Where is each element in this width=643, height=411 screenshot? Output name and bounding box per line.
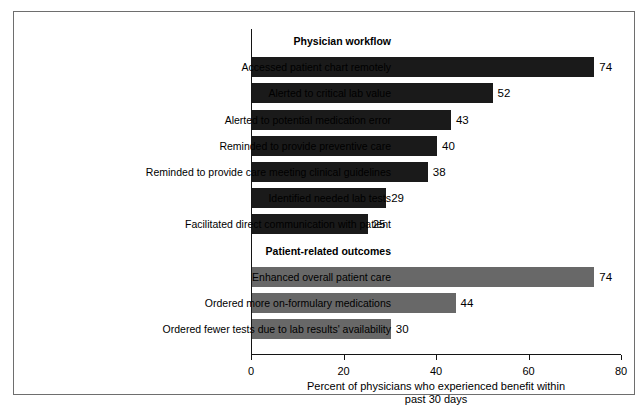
section-header-label: Physician workflow — [294, 35, 391, 47]
section-header-label: Patient-related outcomes — [266, 245, 391, 257]
x-axis-title-line1: Percent of physicians who experienced be… — [251, 380, 621, 393]
category-label: Facilitated direct communication with pa… — [185, 218, 391, 230]
category-label: Enhanced overall patient care — [252, 271, 391, 283]
x-axis-title-line2: past 30 days — [251, 393, 621, 406]
bar-value-label: 40 — [437, 140, 455, 152]
bar-value-label: 52 — [493, 87, 511, 99]
x-tick-label: 40 — [430, 365, 442, 377]
bar-value-label: 38 — [428, 166, 446, 178]
x-tick-label: 0 — [248, 365, 254, 377]
x-tick-mark — [251, 355, 252, 360]
x-tick-mark — [344, 355, 345, 360]
x-tick-label: 20 — [337, 365, 349, 377]
x-tick-mark — [621, 355, 622, 360]
category-label: Reminded to provide preventive care — [219, 140, 391, 152]
x-tick-mark — [529, 355, 530, 360]
category-label: Identified needed lab tests — [268, 192, 391, 204]
chart-figure: 020406080 74524340382925744430 Physician… — [13, 11, 635, 395]
category-label: Accessed patient chart remotely — [242, 61, 391, 73]
bar-value-label: 30 — [391, 323, 409, 335]
category-label: Alerted to potential medication error — [225, 114, 391, 126]
x-tick-label: 60 — [522, 365, 534, 377]
x-tick-mark — [436, 355, 437, 360]
bar-value-label: 74 — [594, 61, 612, 73]
category-label: Reminded to provide care meeting clinica… — [146, 166, 391, 178]
bar-value-label: 74 — [594, 271, 612, 283]
x-axis-title: Percent of physicians who experienced be… — [251, 380, 621, 406]
category-label: Alerted to critical lab value — [268, 87, 391, 99]
bar-value-label: 44 — [456, 297, 474, 309]
category-label: Ordered more on-formulary medications — [205, 297, 391, 309]
x-tick-label: 80 — [615, 365, 627, 377]
category-label: Ordered fewer tests due to lab results' … — [163, 323, 391, 335]
bar-value-label: 43 — [451, 114, 469, 126]
